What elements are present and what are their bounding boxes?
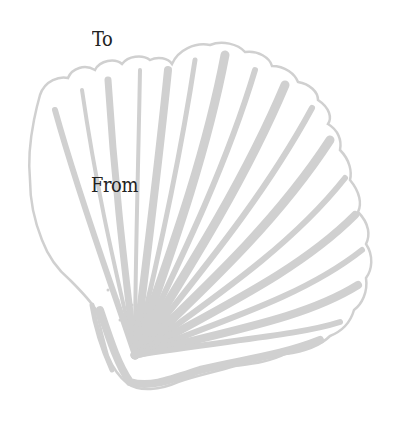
to-label: To — [92, 27, 112, 51]
from-label: From — [91, 173, 138, 197]
scallop-shell-illustration — [0, 0, 406, 422]
gift-tag: To From — [0, 0, 406, 422]
